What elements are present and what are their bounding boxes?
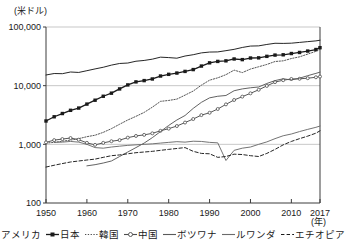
y-tick-label: 100 (26, 198, 41, 208)
series-marker (44, 119, 47, 122)
series-marker (241, 58, 244, 61)
x-tick-label: 2000 (240, 208, 260, 218)
series-line (46, 77, 320, 145)
series-marker (151, 77, 154, 80)
legend-label: エチオピア (295, 229, 345, 240)
axis-frame (46, 27, 320, 203)
legend-label: 韓国 (99, 229, 119, 240)
series-line (46, 48, 320, 121)
series-marker (298, 51, 301, 54)
series-marker (257, 56, 260, 59)
legend-item: エチオピア (281, 229, 345, 240)
series-marker (290, 52, 293, 55)
legend-label: ボツワナ (177, 229, 217, 240)
legend-swatch-line (163, 230, 176, 239)
y-tick-label: 100,000 (8, 22, 41, 32)
series-marker (77, 106, 80, 109)
y-tick-label: 1,000 (18, 140, 41, 150)
series-marker (126, 83, 129, 86)
series-marker (224, 59, 227, 62)
series-marker (134, 134, 137, 137)
series-2 (46, 49, 320, 143)
series-line (46, 40, 320, 75)
series-marker (265, 84, 268, 87)
x-tick-label: 2010 (281, 208, 301, 218)
series-4 (87, 72, 320, 166)
series-marker (118, 139, 121, 142)
series-marker (183, 70, 186, 73)
series-marker (102, 95, 105, 98)
series-marker (151, 132, 154, 135)
series-marker (306, 49, 309, 52)
legend-label: 日本 (60, 229, 80, 240)
series-marker (52, 115, 55, 118)
series-line (46, 49, 320, 143)
series-marker (118, 87, 121, 90)
series-line (87, 72, 320, 166)
series-marker (281, 53, 284, 56)
series-marker (110, 140, 113, 143)
legend-swatch-line (85, 230, 98, 239)
series-marker (45, 141, 48, 144)
series-marker (61, 138, 64, 141)
legend-item: ルワンダ (222, 229, 276, 240)
series-marker (233, 98, 236, 101)
series-marker (319, 75, 322, 78)
series-line (46, 131, 320, 167)
legend-label: ルワンダ (236, 229, 276, 240)
series-marker (77, 138, 80, 141)
series-marker (265, 55, 268, 58)
series-marker (208, 61, 211, 64)
legend-label: アメリカ (1, 229, 41, 240)
series-marker (208, 111, 211, 114)
series-marker (85, 102, 88, 105)
legend-item: アメリカ (0, 229, 41, 240)
series-marker (175, 125, 178, 128)
x-axis-unit-label: (年) (311, 215, 326, 228)
x-tick-label: 1990 (200, 208, 220, 218)
series-marker (69, 109, 72, 112)
legend-item: 日本 (46, 229, 80, 240)
series-marker (216, 60, 219, 63)
series-marker (126, 136, 129, 139)
series-marker (249, 92, 252, 95)
x-tick-label: 1970 (118, 208, 138, 218)
x-tick-label: 1960 (77, 208, 97, 218)
legend-swatch-line (281, 230, 294, 239)
series-marker (273, 53, 276, 56)
series-marker (134, 80, 137, 83)
series-marker (224, 103, 227, 106)
series-marker (200, 114, 203, 117)
legend-item: ボツワナ (163, 229, 217, 240)
legend-swatch-line (222, 230, 235, 239)
series-marker (241, 95, 244, 98)
series-marker (110, 91, 113, 94)
series-marker (61, 112, 64, 115)
series-marker (142, 79, 145, 82)
series-marker (314, 76, 317, 79)
series-marker (232, 57, 235, 60)
legend-swatch-open-circle (124, 230, 137, 239)
series-marker (306, 77, 309, 80)
series-marker (318, 46, 321, 49)
y-tick-label: 10,000 (13, 81, 41, 91)
series-marker (167, 73, 170, 76)
series-marker (93, 99, 96, 102)
legend-swatch-filled-square (46, 230, 59, 239)
series-marker (249, 56, 252, 59)
series-marker (167, 127, 170, 130)
series-marker (69, 137, 72, 140)
legend-marker (51, 233, 55, 237)
chart-legend: アメリカ日本韓国中国ボツワナルワンダエチオピア (0, 229, 332, 240)
legend-label: 中国 (138, 229, 158, 240)
series-marker (257, 88, 260, 91)
x-tick-label: 1980 (159, 208, 179, 218)
legend-item: 韓国 (85, 229, 119, 240)
series-marker (94, 143, 97, 146)
legend-marker (129, 233, 133, 237)
legend-item: 中国 (124, 229, 158, 240)
series-marker (53, 139, 56, 142)
series-marker (184, 121, 187, 124)
